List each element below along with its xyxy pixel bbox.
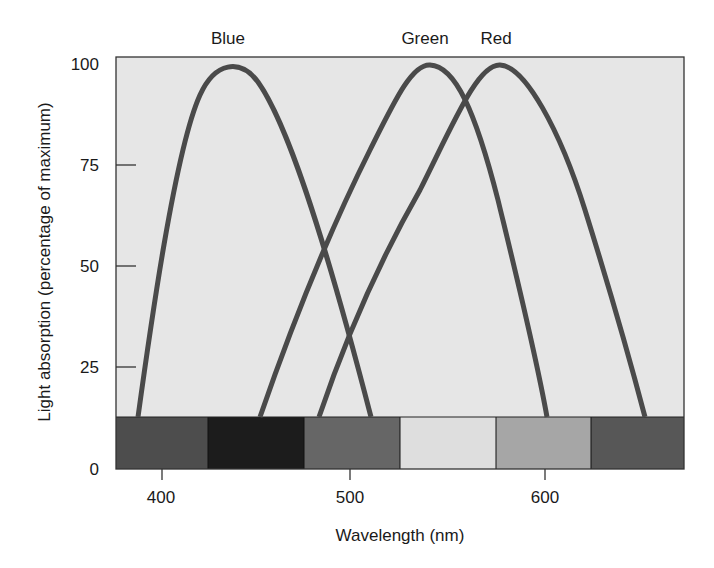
y-tick-label-50: 50 bbox=[80, 257, 99, 276]
series-label-red: Red bbox=[480, 29, 511, 48]
x-tick-label-500: 500 bbox=[336, 488, 364, 507]
x-axis-title: Wavelength (nm) bbox=[336, 526, 465, 545]
spectrum-segment-orange bbox=[496, 417, 591, 469]
y-axis-title: Light absorption (percentage of maximum) bbox=[35, 102, 54, 421]
absorption-chart: 100 75 50 25 0 400 500 600 Blue Green Re… bbox=[0, 0, 714, 568]
spectrum-segment-yellow bbox=[400, 417, 496, 469]
y-tick-label-25: 25 bbox=[80, 358, 99, 377]
spectrum-bar bbox=[116, 417, 684, 469]
spectrum-segment-red bbox=[591, 417, 684, 469]
y-tick-label-100: 100 bbox=[71, 55, 99, 74]
y-tick-label-75: 75 bbox=[80, 156, 99, 175]
spectrum-segment-green bbox=[304, 417, 400, 469]
series-label-green: Green bbox=[401, 29, 448, 48]
y-tick-label-0: 0 bbox=[90, 460, 99, 479]
series-label-blue: Blue bbox=[211, 29, 245, 48]
x-tick-label-400: 400 bbox=[147, 488, 175, 507]
x-tick-label-600: 600 bbox=[531, 488, 559, 507]
spectrum-segment-blue bbox=[208, 417, 304, 469]
spectrum-segment-violet bbox=[116, 417, 208, 469]
x-ticks bbox=[162, 469, 545, 480]
